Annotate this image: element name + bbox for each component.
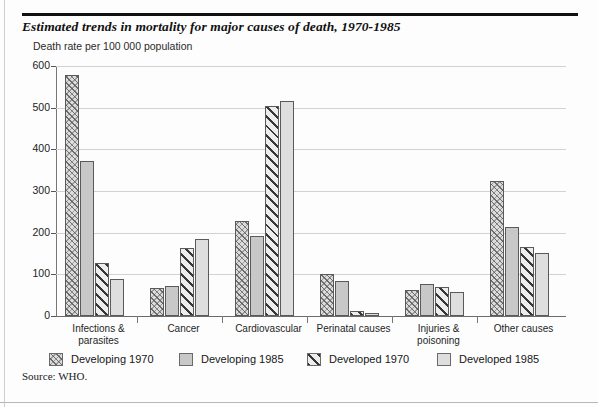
bar: [405, 290, 420, 316]
y-tick-mark-200: [51, 233, 56, 234]
bar: [450, 292, 465, 316]
bar: [80, 161, 95, 316]
category-label-line: Other causes: [471, 323, 576, 335]
bar: [195, 239, 210, 316]
category-label-line: poisoning: [386, 335, 491, 347]
bar: [535, 253, 550, 316]
bar: [335, 281, 350, 316]
figure-title: Estimated trends in mortality for major …: [22, 19, 562, 35]
legend-label: Developed 1985: [459, 352, 539, 367]
y-tick-label-500: 500: [20, 101, 50, 113]
title-rule: [22, 13, 578, 16]
bar: [165, 286, 180, 316]
y-tick-label-100: 100: [20, 267, 50, 279]
bar: [490, 181, 505, 316]
bar: [320, 274, 335, 316]
gridline-500: [56, 108, 566, 109]
legend-swatch-icon: [437, 353, 451, 366]
bar: [150, 288, 165, 316]
y-tick-mark-300: [51, 191, 56, 192]
bar: [65, 75, 80, 316]
plot-area: [56, 66, 566, 316]
bar: [95, 263, 110, 316]
gridline-600: [56, 66, 566, 67]
y-tick-label-200: 200: [20, 226, 50, 238]
y-tick-label-300: 300: [20, 184, 50, 196]
bar: [280, 101, 295, 316]
group-separator-4: [392, 316, 393, 323]
y-tick-label-0: 0: [20, 309, 50, 321]
legend-label: Developing 1970: [71, 352, 154, 367]
bar: [505, 227, 520, 316]
group-separator-5: [477, 316, 478, 323]
group-separator-1: [137, 316, 138, 323]
legend-swatch-icon: [49, 353, 63, 366]
bar: [365, 313, 380, 316]
page-edge-bottom: [0, 402, 598, 403]
y-tick-label-400: 400: [20, 142, 50, 154]
bar: [110, 279, 125, 317]
gridline-0: [56, 316, 566, 317]
y-tick-mark-500: [51, 108, 56, 109]
legend-label: Developed 1970: [329, 352, 409, 367]
y-tick-mark-600: [51, 66, 56, 67]
group-separator-2: [222, 316, 223, 323]
bar: [180, 248, 195, 316]
bar: [350, 311, 365, 316]
gridline-400: [56, 149, 566, 150]
y-tick-mark-400: [51, 149, 56, 150]
y-tick-mark-100: [51, 274, 56, 275]
bar: [250, 236, 265, 316]
bar: [420, 284, 435, 316]
bar: [235, 221, 250, 316]
group-separator-3: [307, 316, 308, 323]
category-label-line: parasites: [46, 335, 151, 347]
figure-panel: Estimated trends in mortality for major …: [0, 0, 598, 407]
page-edge-left: [4, 0, 5, 407]
category-label-5: Other causes: [471, 323, 576, 335]
y-axis-caption: Death rate per 100 000 population: [33, 40, 192, 52]
y-tick-label-600: 600: [20, 59, 50, 71]
legend-label: Developing 1985: [201, 352, 284, 367]
bar: [520, 247, 535, 316]
bar: [265, 106, 280, 316]
y-tick-mark-0: [51, 316, 56, 317]
source-note: Source: WHO.: [22, 370, 87, 382]
legend-swatch-icon: [307, 353, 321, 366]
legend-swatch-icon: [179, 353, 193, 366]
bar: [435, 287, 450, 316]
